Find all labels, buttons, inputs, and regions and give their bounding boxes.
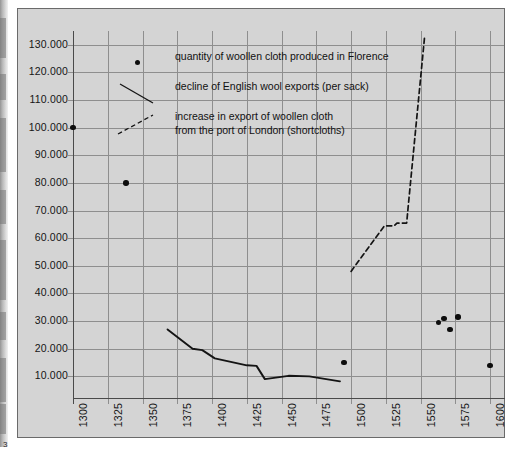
scan-artifact xyxy=(0,240,6,300)
x-tick-label: 1425 xyxy=(251,403,263,427)
x-tick-label: 1575 xyxy=(459,403,471,427)
scan-artifact xyxy=(0,190,6,224)
scatter-point xyxy=(123,180,129,186)
y-axis-tick-labels: 130.000120.000110.000100.00090.00080.000… xyxy=(18,31,68,398)
chart-frame: 130.000120.000110.000100.00090.00080.000… xyxy=(17,8,505,438)
scan-artifact xyxy=(0,312,6,340)
scatter-point xyxy=(341,360,347,366)
scan-artifact xyxy=(0,74,6,100)
x-tick-label: 1475 xyxy=(320,403,332,427)
x-tick-label: 1525 xyxy=(390,403,402,427)
y-tick-label: 40.000 xyxy=(35,286,68,298)
x-tick-label: 1450 xyxy=(286,403,298,427)
y-tick-label: 100.000 xyxy=(29,121,68,133)
legend-label-wool-decline: decline of English wool exports (per sac… xyxy=(175,80,369,94)
y-tick-label: 80.000 xyxy=(35,176,68,188)
dot-icon xyxy=(135,60,140,65)
y-tick-label: 120.000 xyxy=(29,65,68,77)
scan-artifact xyxy=(0,358,6,402)
scan-artifact xyxy=(0,18,6,58)
y-tick-label: 50.000 xyxy=(35,259,68,271)
y-tick-label: 60.000 xyxy=(35,231,68,243)
scatter-point xyxy=(441,316,447,322)
y-tick-label: 20.000 xyxy=(35,342,68,354)
x-axis-tick-labels: 1300132513501375140014251450147515001525… xyxy=(73,403,507,445)
scan-artifact xyxy=(0,118,6,172)
legend-marker-dot xyxy=(113,51,167,77)
scatter-point xyxy=(455,314,461,320)
x-tick-label: 1550 xyxy=(425,403,437,427)
page-number: 3 xyxy=(3,440,7,449)
legend-item-wool-decline: decline of English wool exports (per sac… xyxy=(113,81,423,107)
x-tick-label: 1600 xyxy=(494,403,506,427)
legend-label-florence: quantity of woollen cloth produced in Fl… xyxy=(175,50,389,64)
x-tick-label: 1325 xyxy=(112,403,124,427)
scatter-point xyxy=(487,363,493,369)
y-tick-label: 110.000 xyxy=(29,93,68,105)
y-tick-label: 10.000 xyxy=(35,369,68,381)
y-tick-label: 130.000 xyxy=(29,38,68,50)
x-tick-label: 1400 xyxy=(216,403,228,427)
y-tick-label: 90.000 xyxy=(35,148,68,160)
x-tick-label: 1300 xyxy=(77,403,89,427)
legend-item-florence: quantity of woollen cloth produced in Fl… xyxy=(113,51,423,77)
legend-marker-dashed-line xyxy=(113,111,167,137)
legend-marker-solid-line xyxy=(113,81,167,107)
chart-legend: quantity of woollen cloth produced in Fl… xyxy=(113,51,423,141)
scanned-page-gutter xyxy=(0,0,8,447)
scan-artifact xyxy=(0,404,6,434)
line-english-wool xyxy=(168,329,340,381)
solid-line-icon xyxy=(113,81,167,107)
scatter-point xyxy=(447,327,453,333)
legend-item-london-shortcloths: increase in export of woollen cloth from… xyxy=(113,111,423,137)
y-tick-label: 30.000 xyxy=(35,314,68,326)
x-tick-label: 1500 xyxy=(355,403,367,427)
legend-label-london-shortcloths: increase in export of woollen cloth from… xyxy=(175,110,345,137)
y-tick-label: 70.000 xyxy=(35,204,68,216)
dashed-line-icon xyxy=(113,111,167,137)
x-tick-label: 1350 xyxy=(147,403,159,427)
x-tick-label: 1375 xyxy=(181,403,193,427)
